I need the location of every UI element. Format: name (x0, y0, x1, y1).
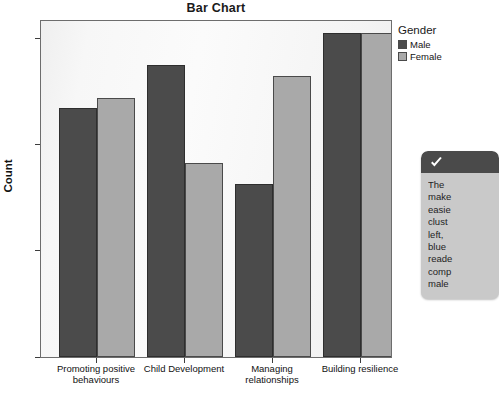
legend-item-male: Male (398, 39, 481, 50)
chart-title: Bar Chart (40, 1, 392, 15)
tip-callout-line-2: easie (428, 204, 499, 216)
x-category-label-1: Child Development (133, 363, 235, 374)
legend: Gender Male Female (398, 24, 481, 63)
legend-swatch-female-icon (398, 52, 407, 61)
plot-frame (40, 20, 392, 358)
bar-female-building-resilience (361, 33, 392, 357)
legend-swatch-male-icon (398, 40, 407, 49)
tip-callout-line-5: blue (428, 241, 499, 253)
legend-label-female: Female (410, 51, 442, 62)
x-category-label-2-line1: Managing (222, 363, 322, 374)
x-category-label-2-line2: relationships (222, 374, 322, 385)
bar-male-managing-relationships (235, 184, 273, 357)
tip-callout-line-4: left, (428, 229, 499, 241)
bar-chart-figure: Bar Chart Count 30 20 10 0 Promoting pos… (0, 0, 400, 399)
x-category-label-2: Managing relationships (222, 363, 322, 385)
tip-callout-body: The make easie clust left, blue reade co… (421, 173, 499, 299)
bar-male-building-resilience (323, 33, 361, 357)
legend-label-male: Male (410, 39, 431, 50)
tip-callout-line-0: The (428, 179, 499, 191)
tip-callout-header (421, 151, 499, 173)
bar-female-promoting-positive-behaviours (97, 98, 135, 357)
x-category-label-3-line1: Building resilience (308, 363, 412, 374)
x-category-label-0-line2: behaviours (44, 374, 148, 385)
bar-female-managing-relationships (273, 76, 311, 357)
plot-area (41, 21, 391, 357)
y-axis-title: Count (2, 159, 14, 192)
bar-male-child-development (147, 65, 185, 357)
tip-callout-line-3: clust (428, 216, 499, 228)
x-category-label-1-line1: Child Development (133, 363, 235, 374)
bar-female-child-development (185, 163, 223, 358)
tip-callout-line-8: male (428, 278, 499, 290)
legend-title: Gender (398, 24, 481, 36)
tip-callout-line-1: make (428, 191, 499, 203)
tip-callout-box: The make easie clust left, blue reade co… (421, 151, 499, 299)
tip-callout-line-6: reade (428, 253, 499, 265)
tip-callout-line-7: comp (428, 266, 499, 278)
checkmark-icon (429, 155, 444, 170)
bar-male-promoting-positive-behaviours (59, 108, 97, 357)
x-category-label-3: Building resilience (308, 363, 412, 374)
legend-item-female: Female (398, 51, 481, 62)
